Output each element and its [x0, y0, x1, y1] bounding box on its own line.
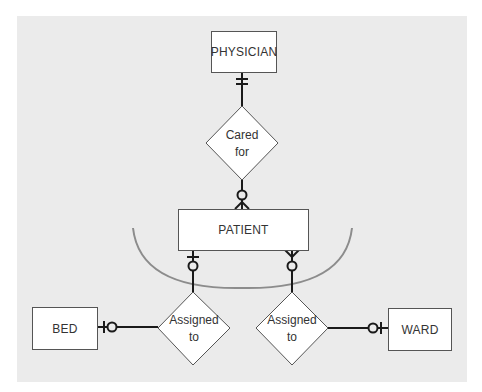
entity-bed: BED	[32, 307, 98, 350]
relationship-assigned-ward-line2: to	[287, 329, 297, 346]
entity-ward-label: WARD	[401, 323, 438, 337]
connector-relation-ward	[328, 322, 388, 334]
entity-patient: PATIENT	[178, 209, 309, 251]
entity-patient-label: PATIENT	[218, 223, 268, 237]
relationship-cared-for: Cared for	[206, 126, 278, 162]
relationship-cared-for-line2: for	[235, 144, 249, 161]
relationship-assigned-ward: Assigned to	[256, 311, 328, 347]
relationship-assigned-ward-line1: Assigned	[267, 312, 316, 329]
relationship-assigned-bed: Assigned to	[158, 311, 230, 347]
entity-bed-label: BED	[52, 322, 77, 336]
relationship-assigned-bed-line1: Assigned	[169, 312, 218, 329]
entity-ward: WARD	[388, 308, 452, 351]
entity-physician-label: PHYSICIAN	[211, 45, 277, 59]
relationship-cared-for-line1: Cared	[226, 127, 259, 144]
connector-physician-caredfor	[236, 72, 248, 106]
relationship-assigned-bed-line2: to	[189, 329, 199, 346]
connector-relation-bed	[97, 321, 158, 333]
connector-caredfor-patient	[235, 180, 249, 209]
entity-physician: PHYSICIAN	[211, 31, 277, 73]
